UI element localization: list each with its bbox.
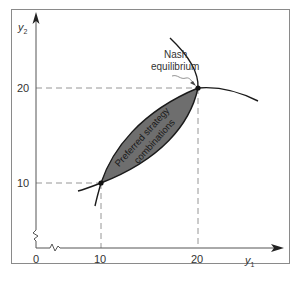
nash-label-line1: Nash bbox=[164, 49, 187, 60]
nash-equilibrium-diagram: 0 10 20 20 10 y2 y1 Nash equilibrium Pre… bbox=[0, 0, 303, 281]
y-tick-20: 20 bbox=[17, 82, 29, 94]
y-axis bbox=[33, 19, 38, 248]
y-axis-label: y2 bbox=[17, 21, 28, 35]
lower-intersection-point bbox=[98, 180, 103, 185]
nash-equilibrium-point bbox=[195, 85, 200, 90]
x-tick-20: 20 bbox=[191, 253, 203, 265]
x-axis-label: y1 bbox=[244, 254, 255, 268]
origin-label: 0 bbox=[33, 253, 39, 265]
x-axis bbox=[36, 244, 275, 251]
nash-label-line2: equilibrium bbox=[151, 61, 199, 72]
x-tick-10: 10 bbox=[94, 253, 106, 265]
nash-pointer-arrowhead-icon bbox=[190, 81, 196, 86]
y-tick-10: 10 bbox=[17, 177, 29, 189]
